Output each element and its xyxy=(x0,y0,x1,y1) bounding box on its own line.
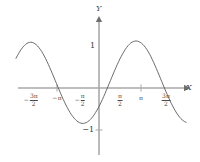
x-tick-label-neg-pi-over-2: −π2 xyxy=(75,93,85,107)
pi-symbol: π xyxy=(139,95,143,101)
x-tick-label-neg-pi: −π xyxy=(52,95,61,101)
cosine-curve xyxy=(16,41,186,123)
fraction: 3π2 xyxy=(29,93,38,107)
cosine-function-graph: X Y −3π2 −π −π2 π2 π 3π2 1 −1 xyxy=(0,0,200,162)
x-tick-label-3pi-over-2: 3π2 xyxy=(162,93,171,107)
x-tick-label-pi: π xyxy=(139,95,143,101)
fraction: π2 xyxy=(118,93,123,107)
pi-symbol: π xyxy=(58,95,62,101)
x-tick-label-neg-3pi-over-2: −3π2 xyxy=(24,93,38,107)
fraction: π2 xyxy=(80,93,85,107)
plot-area xyxy=(0,0,200,162)
x-axis-label: X xyxy=(186,84,192,92)
fraction: 3π2 xyxy=(162,93,171,107)
y-axis-arrowhead xyxy=(96,16,102,22)
x-tick-label-pi-over-2: π2 xyxy=(118,93,123,107)
y-tick-label-neg-1: −1 xyxy=(82,126,94,134)
y-axis-label: Y xyxy=(96,5,101,13)
y-tick-label-1: 1 xyxy=(90,42,95,50)
